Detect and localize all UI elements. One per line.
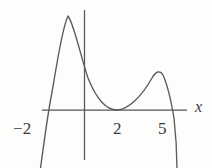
x-tick-label-2: 2 (113, 120, 122, 137)
function-curve (40, 16, 177, 168)
graph-figure: −2 2 5 x (0, 0, 212, 168)
x-tick-label-minus-2: −2 (13, 120, 32, 137)
plot-canvas (0, 0, 212, 168)
x-tick-label-5: 5 (158, 120, 167, 137)
x-axis-label: x (195, 99, 202, 115)
